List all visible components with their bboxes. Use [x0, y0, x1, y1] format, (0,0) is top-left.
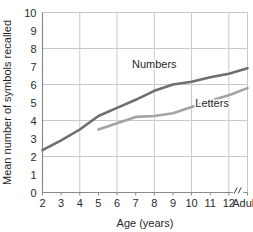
y-tick-label: 9	[30, 25, 36, 37]
y-tick-label: 2	[30, 151, 36, 163]
series-label-letters: Letters	[195, 97, 229, 109]
y-tick-label: 7	[30, 61, 36, 73]
x-tick-label: 5	[95, 197, 101, 209]
x-tick-label: Adults	[232, 197, 253, 209]
x-tick-label: 7	[133, 197, 139, 209]
x-tick-label: 6	[114, 197, 120, 209]
x-tick-label: 10	[185, 197, 197, 209]
y-tick-label: 1	[30, 169, 36, 181]
x-tick-label: 4	[77, 197, 83, 209]
series-label-numbers: Numbers	[132, 58, 177, 70]
y-tick-label: 3	[30, 133, 36, 145]
x-tick-label: 8	[151, 197, 157, 209]
x-axis-title: Age (years)	[117, 217, 174, 229]
y-tick-label: 0	[30, 187, 36, 199]
y-tick-label: 4	[30, 115, 36, 127]
x-tick-label: 2	[39, 197, 45, 209]
x-tick-label: 9	[170, 197, 176, 209]
y-tick-label: 10	[24, 7, 36, 19]
x-tick-label: 3	[58, 197, 64, 209]
y-axis-title: Mean number of symbols recalled	[1, 20, 13, 185]
y-tick-label: 5	[30, 97, 36, 109]
line-chart: 01234567891023456789101112AdultsNumbersN…	[0, 0, 253, 232]
x-tick-label: 11	[205, 197, 216, 209]
chart-container: 01234567891023456789101112AdultsNumbersN…	[0, 0, 253, 232]
y-tick-label: 6	[30, 79, 36, 91]
y-tick-label: 8	[30, 43, 36, 55]
